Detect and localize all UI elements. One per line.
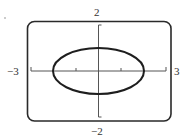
stray-mark: [4, 17, 6, 19]
y-max-label: 2: [94, 7, 100, 18]
y-min-label: −2: [91, 126, 103, 137]
plot-canvas: [0, 0, 188, 139]
x-min-label: −3: [7, 66, 19, 77]
graph-figure: 2 −2 −3 3: [0, 0, 188, 139]
x-max-label: 3: [174, 66, 180, 77]
